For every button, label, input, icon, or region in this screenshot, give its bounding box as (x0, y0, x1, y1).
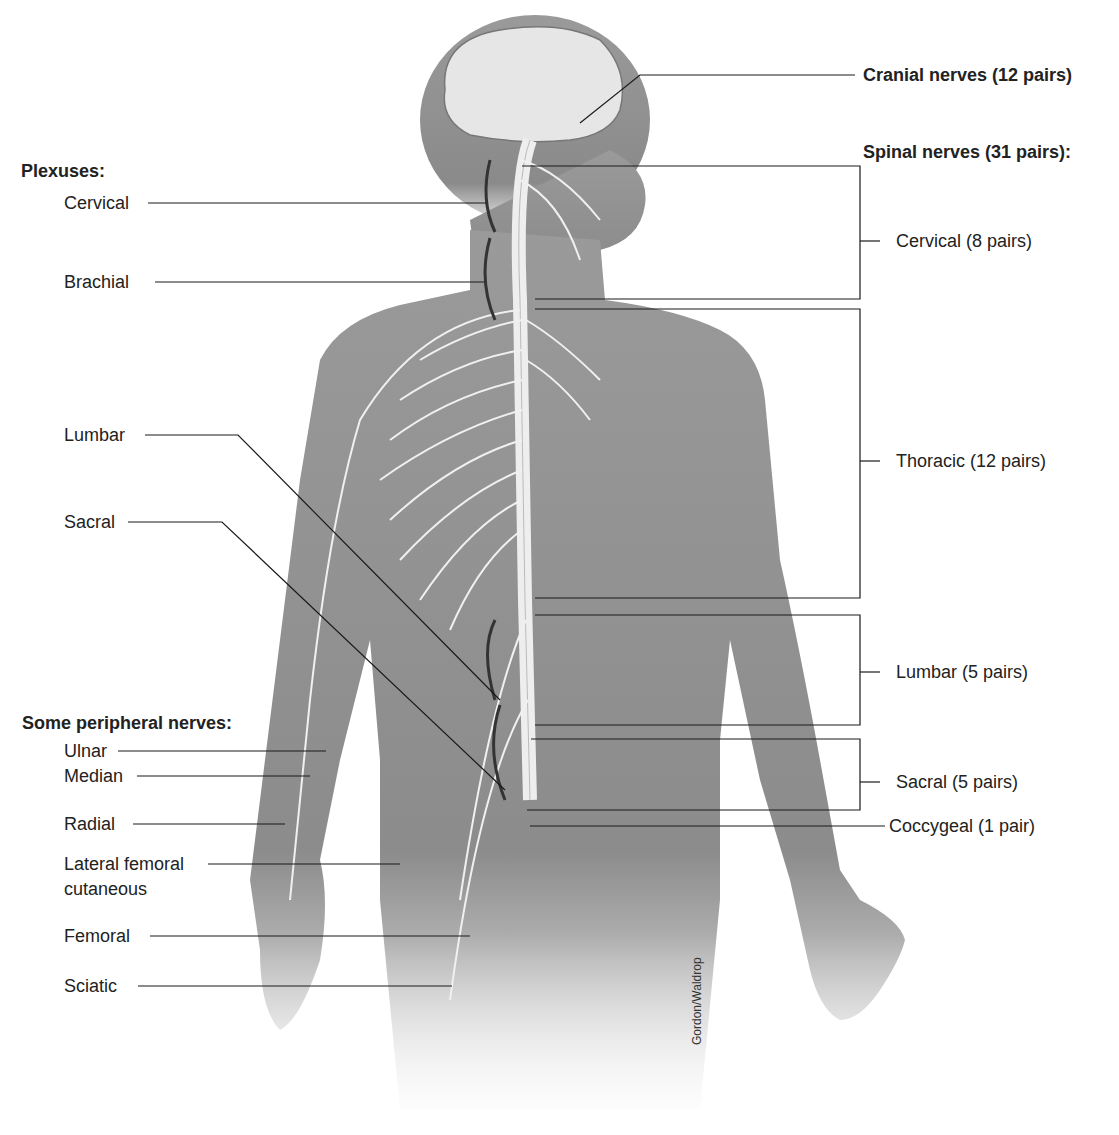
label-cutaneous: cutaneous (64, 879, 147, 899)
label-lateral-femoral: Lateral femoral (64, 854, 184, 874)
label-median: Median (64, 766, 123, 786)
peripheral-heading: Some peripheral nerves: (22, 713, 232, 733)
label-cervical-spinal: Cervical (8 pairs) (896, 231, 1032, 251)
label-lumbar-spinal: Lumbar (5 pairs) (896, 662, 1028, 682)
label-cranial-nerves: Cranial nerves (12 pairs) (863, 65, 1072, 85)
label-brachial-plexus: Brachial (64, 272, 129, 292)
brain (444, 27, 622, 142)
label-femoral: Femoral (64, 926, 130, 946)
plexuses-heading: Plexuses: (21, 161, 105, 181)
spinal-heading: Spinal nerves (31 pairs): (863, 142, 1071, 162)
label-radial: Radial (64, 814, 115, 834)
nervous-system-diagram: Plexuses: Cervical Brachial Lumbar Sacra… (0, 0, 1119, 1135)
label-sacral-plexus: Sacral (64, 512, 115, 532)
illustrator-credit: Gordon/Waldrop (690, 957, 704, 1045)
label-sciatic: Sciatic (64, 976, 117, 996)
label-ulnar: Ulnar (64, 741, 107, 761)
label-lumbar-plexus: Lumbar (64, 425, 125, 445)
label-cervical-plexus: Cervical (64, 193, 129, 213)
label-thoracic-spinal: Thoracic (12 pairs) (896, 451, 1046, 471)
label-coccygeal-spinal: Coccygeal (1 pair) (889, 816, 1035, 836)
body-illustration (0, 0, 1119, 1135)
label-sacral-spinal: Sacral (5 pairs) (896, 772, 1018, 792)
